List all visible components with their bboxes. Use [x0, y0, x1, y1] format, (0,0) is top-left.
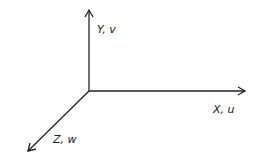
z-axis: Z, w — [28, 91, 89, 151]
y-axis: Y, v — [85, 10, 116, 91]
y-axis-label: Y, v — [97, 23, 116, 36]
x-axis: X, u — [89, 87, 245, 116]
x-axis-label: X, u — [212, 103, 235, 116]
coordinate-axes-diagram: Y, v X, u Z, w — [0, 0, 257, 163]
z-axis-label: Z, w — [52, 133, 77, 146]
